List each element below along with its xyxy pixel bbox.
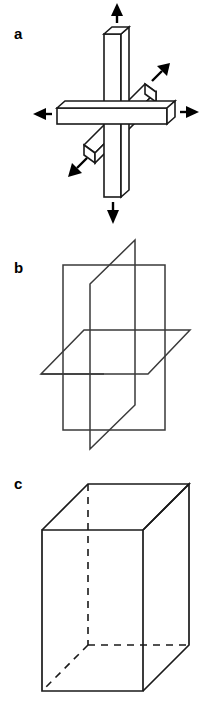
arrow-left-icon bbox=[33, 108, 52, 120]
panel-a-diagram bbox=[0, 0, 219, 234]
arrow-depth-out-icon bbox=[152, 63, 170, 81]
panel-c-diagram bbox=[0, 462, 219, 702]
bar-horizontal bbox=[57, 101, 175, 124]
plane-vertical-rear bbox=[63, 265, 165, 430]
arrow-down-icon bbox=[107, 202, 119, 224]
panel-a: a bbox=[0, 0, 219, 234]
box-visible-edges bbox=[42, 484, 189, 691]
arrow-depth-in-icon bbox=[68, 158, 87, 177]
figure-root: a bbox=[0, 0, 219, 702]
arrow-up-icon bbox=[111, 3, 123, 23]
arrow-right-icon bbox=[180, 106, 199, 118]
panel-b: b bbox=[0, 234, 219, 462]
panel-b-diagram bbox=[0, 234, 219, 462]
plane-vertical-oblique bbox=[90, 240, 135, 449]
panel-c: c bbox=[0, 462, 219, 702]
box-hidden-edges bbox=[42, 484, 189, 691]
